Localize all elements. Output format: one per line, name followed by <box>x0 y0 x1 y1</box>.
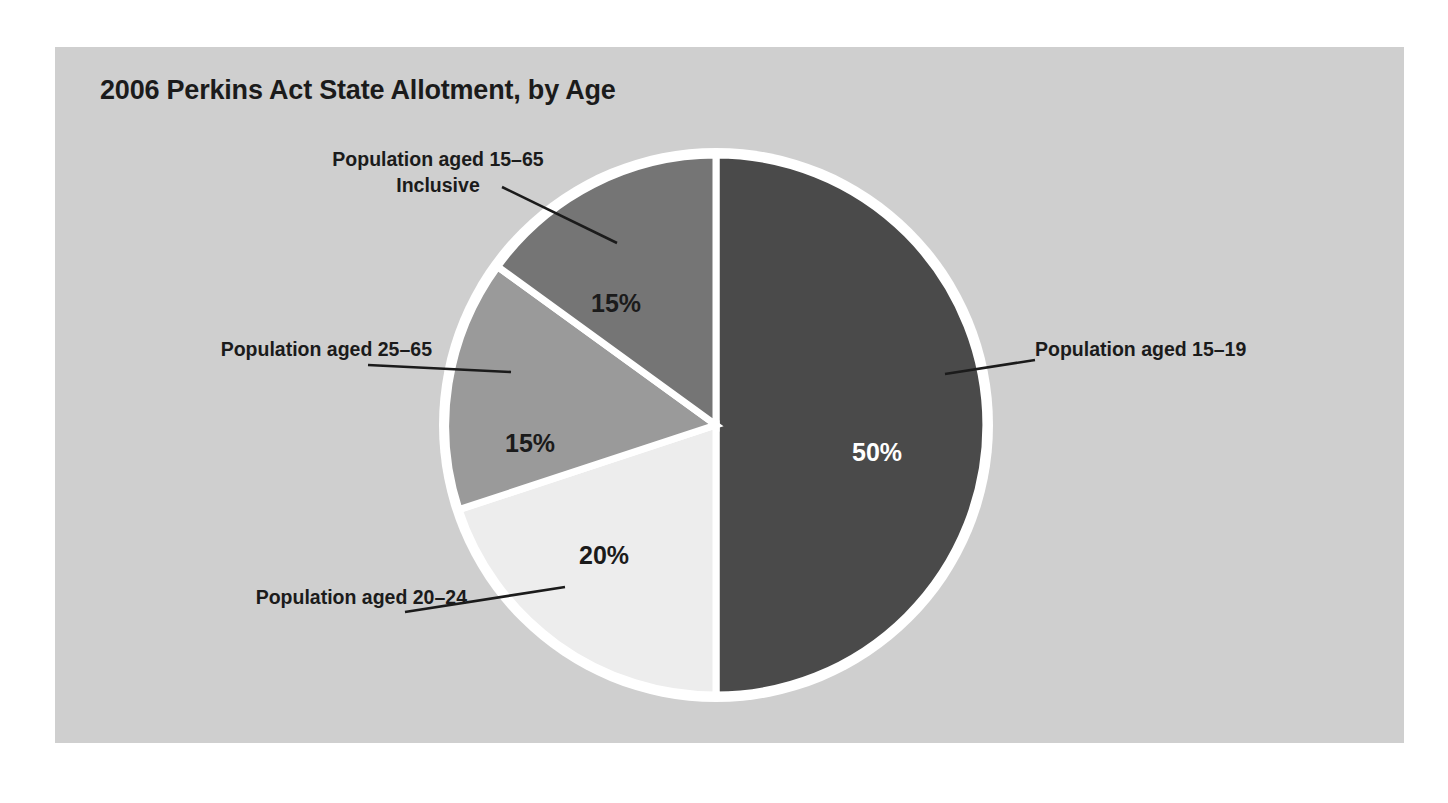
slice-label-15-19: Population aged 15–19 <box>1035 337 1355 363</box>
pie-chart <box>55 47 1404 743</box>
slice-value-15-65-inclusive: 15% <box>591 289 641 318</box>
slice-value-20-24: 20% <box>579 541 629 570</box>
slice-value-15-19: 50% <box>852 438 902 467</box>
page-root: 2006 Perkins Act State Allotment, by Age <box>0 0 1448 803</box>
pie-slice-15-19[interactable] <box>716 155 986 695</box>
slice-label-25-65: Population aged 25–65 <box>132 337 432 363</box>
slice-value-25-65: 15% <box>505 429 555 458</box>
figure-panel: 2006 Perkins Act State Allotment, by Age <box>55 47 1404 743</box>
slice-label-15-65-inclusive: Population aged 15–65 Inclusive <box>313 147 563 198</box>
slice-label-20-24: Population aged 20–24 <box>167 585 467 611</box>
pie-chart-svg <box>55 47 1404 743</box>
